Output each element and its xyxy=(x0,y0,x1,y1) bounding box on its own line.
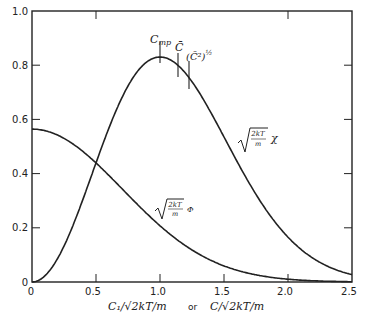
x-tick-2.0: 2.0 xyxy=(277,286,293,297)
velocity-distribution-chart: 0 0.2 0.4 0.6 0.8 1.0 0 0.5 1.0 1.5 2.0 … xyxy=(0,0,367,321)
y-tick-0.6: 0.6 xyxy=(12,114,28,125)
svg-text:m: m xyxy=(172,210,178,218)
y-tick-0.4: 0.4 xyxy=(12,168,28,179)
chi-curve xyxy=(32,57,352,282)
svg-text:χ: χ xyxy=(270,132,279,145)
svg-text:2kT: 2kT xyxy=(250,130,266,138)
x-tick-0.5: 0.5 xyxy=(85,286,101,297)
svg-text:m: m xyxy=(255,140,261,148)
x-tick-1.5: 1.5 xyxy=(214,286,230,297)
cmean-label: C̄ xyxy=(175,41,184,54)
svg-text:Φ: Φ xyxy=(187,205,194,214)
x-tick-1.0: 1.0 xyxy=(150,286,166,297)
x-axis-label-or: or xyxy=(188,302,198,312)
svg-text:2kT: 2kT xyxy=(167,201,183,209)
x-axis-label-left: C₁/√2kT/m xyxy=(108,300,167,313)
y-tick-0.2: 0.2 xyxy=(12,222,28,233)
y-tick-0.8: 0.8 xyxy=(12,60,28,71)
x-tick-0: 0 xyxy=(28,286,34,297)
y-axis-ticks xyxy=(32,65,352,228)
phi-curve-label: 2kT m Φ xyxy=(155,199,194,219)
x-axis-label-right: C/√2kT/m xyxy=(210,300,264,313)
x-tick-2.5: 2.5 xyxy=(341,286,357,297)
chi-curve-label: 2kT m χ xyxy=(238,128,279,152)
cmp-label: Cmp xyxy=(150,33,171,47)
crms-label: (C̄²)½ xyxy=(186,49,212,62)
y-tick-1.0: 1.0 xyxy=(12,6,28,17)
